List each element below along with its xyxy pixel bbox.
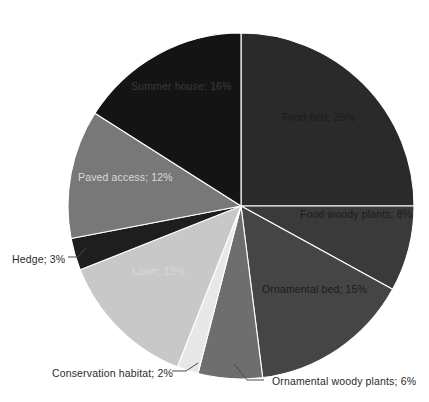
- pie-slices-group: [68, 33, 414, 379]
- pie-label-lawn: Lawn; 13%: [132, 265, 185, 277]
- pie-label-hedge: Hedge; 3%: [12, 253, 65, 265]
- pie-chart-svg: Food bed; 25%Food woody plants; 8%Orname…: [0, 0, 429, 402]
- pie-label-food-bed: Food bed; 25%: [282, 111, 355, 123]
- pie-label-ornamental-bed: Ornamental bed; 15%: [262, 283, 367, 295]
- pie-label-conservation-habitat: Conservation habitat; 2%: [52, 367, 173, 379]
- pie-label-summer-house: Summer house; 16%: [131, 80, 232, 92]
- pie-label-paved-access: Paved access; 12%: [78, 171, 173, 183]
- pie-label-ornamental-woody-plants: Ornamental woody plants; 6%: [272, 375, 416, 387]
- pie-label-food-woody-plants: Food woody plants; 8%: [300, 208, 412, 220]
- pie-chart-figure: Food bed; 25%Food woody plants; 8%Orname…: [0, 0, 429, 402]
